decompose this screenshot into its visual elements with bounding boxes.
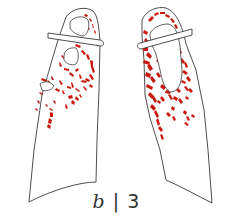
cavity-upper-left (64, 48, 78, 65)
panel-label: b | 3 (0, 190, 233, 212)
panel-separator: | (113, 190, 120, 212)
panel-number: 3 (127, 190, 140, 212)
lung-diagram (0, 0, 233, 221)
panel-letter: b (93, 190, 106, 212)
